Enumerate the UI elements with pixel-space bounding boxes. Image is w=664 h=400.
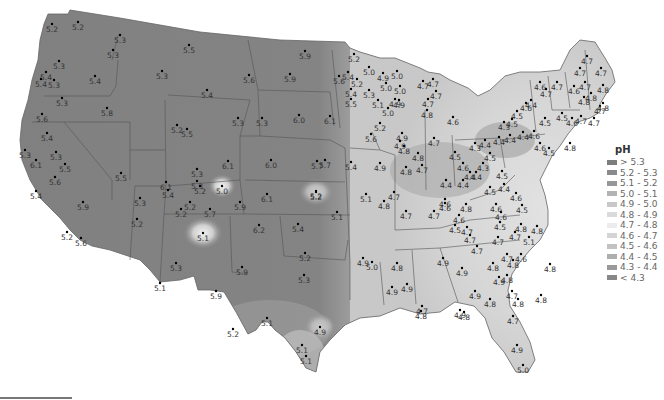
station: 5.6 (75, 237, 87, 248)
station-ph-value: 4.4 (479, 141, 491, 150)
station-ph-value: 4.5 (449, 153, 461, 162)
station-ph-value: 6.2 (253, 226, 265, 235)
station-ph-value: 4.5 (539, 119, 551, 128)
legend-swatch (607, 181, 617, 186)
station-ph-value: 4.8 (585, 94, 597, 103)
station-ph-value: 5.3 (232, 119, 244, 128)
station-ph-value: 6.1 (30, 161, 42, 170)
station-ph-value: 5.3 (56, 99, 68, 108)
station: 5.4 (41, 132, 53, 143)
station: 5.2 (175, 208, 187, 219)
station: 4.7 (416, 164, 428, 175)
station: 5.1 (197, 232, 209, 243)
station: 5.6 (365, 133, 377, 144)
station: 4.8 (535, 294, 547, 305)
station-ph-value: 4.7 (501, 255, 513, 264)
station: 4.5 (543, 147, 555, 158)
legend-swatch (607, 170, 617, 175)
station: 5.2 (299, 252, 311, 263)
station: 4.7 (595, 67, 607, 78)
station: 4.7 (588, 117, 600, 128)
station-ph-value: 4.7 (509, 233, 521, 242)
station-ph-value: 5.2 (310, 192, 322, 201)
legend-swatch (607, 223, 617, 228)
station: 5.3 (363, 89, 375, 100)
station-ph-value: 5.9 (77, 203, 89, 212)
station-ph-value: 6.0 (265, 161, 277, 170)
legend-item: 4.3 - 4.4 (607, 262, 664, 273)
station-ph-value: 4.7 (416, 307, 428, 316)
station: 5.0 (216, 185, 228, 196)
station-ph-value: 5.5 (345, 100, 357, 109)
station: 6.0 (293, 114, 305, 125)
station-ph-value: 4.4 (498, 185, 510, 194)
station-ph-value: 4.3 (498, 123, 510, 132)
station: 5.3 (191, 168, 203, 179)
station-ph-value: 4.5 (516, 206, 528, 215)
station: 5.3 (19, 149, 31, 160)
station: 5.9 (299, 50, 311, 61)
station: 5.3 (170, 262, 182, 273)
station-ph-value: 4.9 (511, 346, 523, 355)
legend-item: 4.4 - 4.5 (607, 252, 664, 263)
station-ph-value: 5.4 (162, 191, 174, 200)
station-ph-value: 4.8 (398, 147, 410, 156)
station-ph-value: 5.3 (256, 119, 268, 128)
station-ph-value: 5.3 (50, 153, 62, 162)
station: 4.8 (400, 166, 412, 177)
station-ph-value: 5.1 (523, 238, 535, 247)
station-ph-value: 4.9 (393, 101, 405, 110)
station: 4.4 (479, 139, 491, 150)
station: 4.9 (386, 286, 398, 297)
station: 4.8 (378, 200, 390, 211)
station-ph-value: 5.6 (333, 77, 345, 86)
station-ph-value: 5.2 (131, 220, 143, 229)
station-ph-value: 6.0 (293, 116, 305, 125)
station-ph-value: 5.3 (298, 276, 310, 285)
station: 5.4 (345, 161, 357, 172)
station-ph-value: 4.8 (597, 86, 609, 95)
station-ph-value: 5.3 (107, 51, 119, 60)
station-ph-value: 4.9 (314, 328, 326, 337)
station-ph-value: 4.5 (484, 188, 496, 197)
station-ph-value: 4.8 (400, 168, 412, 177)
station-ph-value: 4.9 (469, 292, 481, 301)
station-ph-value: 5.3 (363, 91, 375, 100)
legend-label: 4.7 - 4.8 (620, 220, 658, 230)
station-ph-value: 4.9 (456, 269, 468, 278)
station-ph-value: 4.5 (484, 154, 496, 163)
station-ph-value: 5.4 (345, 163, 357, 172)
station: 5.4 (89, 75, 101, 86)
station: 4.8 (487, 262, 499, 273)
station: 5.7 (204, 208, 216, 219)
station: 4.4 (457, 179, 469, 190)
station: 4.8 (458, 311, 470, 322)
station: 4.8 (564, 142, 576, 153)
station-ph-value: 5.4 (41, 134, 53, 143)
station: 4.8 (391, 262, 403, 273)
station: 6.1 (222, 160, 234, 171)
station-ph-value: 4.4 (504, 136, 516, 145)
station-ph-value: 5.8 (101, 109, 113, 118)
station: 5.5 (115, 172, 127, 183)
station: 4.7 (400, 210, 412, 221)
station-ph-value: 5.1 (261, 319, 273, 328)
station-ph-value: 5.1 (300, 357, 312, 366)
station-ph-value: 4.8 (564, 144, 576, 153)
station: 4.9 (377, 72, 389, 83)
station-ph-value: 4.7 (464, 236, 476, 245)
station: 5.1 (296, 344, 308, 355)
station-ph-value: 5.4 (30, 192, 42, 201)
station-ph-value: 5.3 (114, 36, 126, 45)
station-ph-value: 4.7 (579, 83, 591, 92)
station-ph-value: 4.8 (535, 296, 547, 305)
station-ph-value: 5.0 (380, 84, 392, 93)
station: 5.0 (382, 107, 394, 118)
station-ph-value: 5.0 (382, 109, 394, 118)
station: 5.2 (46, 23, 58, 34)
station: 5.2 (351, 78, 363, 89)
station-ph-value: 5.3 (134, 199, 146, 208)
station-ph-value: 4.4 (470, 173, 482, 182)
station-ph-value: 4.8 (531, 227, 543, 236)
station-ph-value: 4.9 (377, 74, 389, 83)
